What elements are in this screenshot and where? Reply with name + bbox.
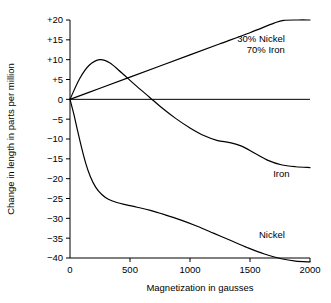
y-tick-label: 0	[58, 94, 63, 105]
series-annotations: 30% Nickel70% IronIronNickel	[237, 33, 289, 240]
y-axis-ticks: +20+15+10+50−5−10−15−20−25−30−35−40	[47, 14, 70, 263]
series-label-iron: Iron	[273, 168, 289, 179]
x-tick-label: 500	[122, 264, 138, 275]
y-tick-label: −40	[47, 252, 63, 263]
y-tick-label: +20	[47, 14, 63, 25]
magnetostriction-line-chart: +20+15+10+50−5−10−15−20−25−30−35−40 0500…	[0, 0, 331, 303]
y-tick-label: +5	[52, 74, 63, 85]
chart-container: +20+15+10+50−5−10−15−20−25−30−35−40 0500…	[0, 0, 331, 303]
y-tick-label: −20	[47, 173, 63, 184]
y-tick-label: −5	[52, 114, 63, 125]
x-tick-label: 1500	[239, 264, 260, 275]
y-tick-label: +10	[47, 54, 63, 65]
y-axis-title: Change in length in parts per million	[5, 63, 16, 215]
data-series-curves	[70, 20, 310, 262]
y-tick-label: −25	[47, 193, 63, 204]
series-label-30-nickel-70-iron: 70% Iron	[247, 44, 285, 55]
x-axis-title: Magnetization in gausses	[146, 282, 253, 293]
x-axis-ticks: 0500100015002000	[67, 258, 320, 275]
x-tick-label: 1000	[179, 264, 200, 275]
series-label-nickel: Nickel	[259, 229, 285, 240]
y-tick-label: −30	[47, 213, 63, 224]
y-tick-label: −15	[47, 153, 63, 164]
x-tick-label: 2000	[299, 264, 320, 275]
y-tick-label: +15	[47, 34, 63, 45]
x-tick-label: 0	[67, 264, 72, 275]
y-tick-label: −35	[47, 233, 63, 244]
axis-lines	[70, 20, 310, 258]
y-tick-label: −10	[47, 133, 63, 144]
series-label-30-nickel-70-iron: 30% Nickel	[237, 33, 285, 44]
series-curve-iron	[70, 60, 310, 168]
